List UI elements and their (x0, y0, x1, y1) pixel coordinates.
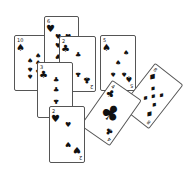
card-rank: 2 (79, 155, 82, 160)
club-icon: ♣ (53, 77, 59, 84)
spade-icon: ♠ (123, 50, 129, 57)
spade-icon: ♠ (27, 72, 33, 79)
club-icon: ♣ (96, 99, 125, 128)
club-icon: ♣ (104, 125, 116, 137)
spade-icon: ♠ (27, 65, 33, 72)
spade-icon: ♠ (16, 43, 25, 53)
card-rank: 4 (106, 136, 111, 142)
heart-icon: ♥ (51, 114, 60, 124)
spade-icon: ♠ (110, 70, 116, 77)
club-icon: ♣ (75, 70, 81, 77)
spade-icon: ♠ (102, 43, 111, 53)
spade-icon: ♠ (115, 60, 121, 67)
card-two-of-hearts: 2 ♥ ♥ ♥ ♥ 2 (49, 106, 85, 163)
club-icon: ♣ (53, 87, 59, 94)
card-rank: 2 (90, 84, 93, 89)
club-icon: ♣ (61, 44, 70, 54)
heart-icon: ♥ (46, 24, 55, 34)
diamond-icon: ♦ (146, 70, 159, 83)
heart-icon: ♥ (65, 122, 71, 129)
spade-icon: ♠ (27, 58, 33, 65)
club-icon: ♣ (75, 52, 81, 59)
club-icon: ♣ (53, 97, 59, 104)
heart-icon: ♥ (73, 145, 81, 154)
card-rank: 5 (130, 83, 133, 88)
club-icon: ♣ (83, 75, 91, 84)
club-icon: ♣ (39, 70, 48, 80)
heart-icon: ♥ (65, 140, 71, 147)
card-five-of-spades: 5 ♠ ♠ ♠ ♠ ♠ ♠ 5 (100, 35, 136, 91)
spade-icon: ♠ (125, 74, 133, 83)
diamond-icon: ♦ (156, 91, 165, 100)
diamond-icon: ♦ (140, 94, 149, 103)
card-rank: 8 (146, 119, 152, 125)
